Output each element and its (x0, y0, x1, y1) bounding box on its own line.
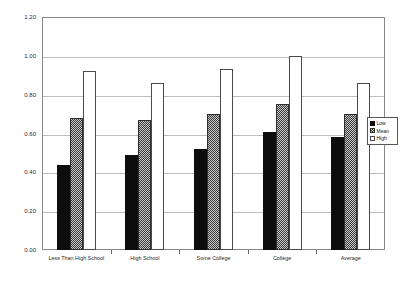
bar-high (357, 83, 370, 250)
legend-swatch-mean-icon (370, 128, 375, 133)
category-separator-tick (316, 250, 317, 254)
y-axis-tick-label: 1.20 (14, 14, 36, 20)
y-axis-tick-label: 0.80 (14, 92, 36, 98)
y-axis-tick-label: 0.60 (14, 131, 36, 137)
y-axis-tick-label: 0.40 (14, 169, 36, 175)
legend-swatch-high-icon (370, 136, 375, 141)
bar-mean (138, 120, 151, 250)
legend-label-low: Low (377, 120, 386, 126)
y-axis-tick-label: 0.00 (14, 247, 36, 253)
bar-low (125, 155, 138, 250)
bar-mean (344, 114, 357, 250)
bars-layer (42, 17, 385, 250)
x-axis-category-label: Average (316, 255, 385, 262)
bar-high (83, 71, 96, 250)
bar-mean (70, 118, 83, 250)
bar-low (263, 132, 276, 250)
x-axis-category-label: College (248, 255, 317, 262)
legend-item-low[interactable]: Low (370, 120, 395, 127)
legend-label-high: High (377, 135, 387, 141)
bar-mean (207, 114, 220, 250)
bar-mean (276, 104, 289, 250)
legend-item-high[interactable]: High (370, 135, 395, 142)
bar-high (289, 56, 302, 250)
x-axis-category-label: Less Than High School (42, 255, 111, 262)
y-axis-tick-label: 1.00 (14, 53, 36, 59)
bar-low (194, 149, 207, 250)
bar-high (151, 83, 164, 250)
bar-low (57, 165, 70, 250)
x-axis-category-label: High School (111, 255, 180, 262)
x-axis-category-label: Some College (179, 255, 248, 262)
bar-chart: Female/Male Hourly Wage Ratio 1.201.000.… (0, 0, 420, 283)
legend[interactable]: Low Mean High (367, 117, 398, 145)
y-axis-tick-label: 0.20 (14, 208, 36, 214)
legend-swatch-low-icon (370, 121, 375, 126)
category-separator-tick (248, 250, 249, 254)
bar-high (220, 69, 233, 250)
category-separator-tick (111, 250, 112, 254)
category-separator-tick (179, 250, 180, 254)
legend-item-mean[interactable]: Mean (370, 127, 395, 134)
legend-label-mean: Mean (377, 128, 390, 134)
bar-low (331, 137, 344, 250)
